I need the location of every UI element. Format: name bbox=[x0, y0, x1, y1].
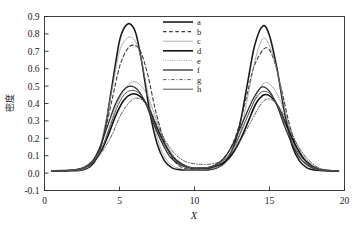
density-curve-a bbox=[52, 24, 339, 172]
legend-label-f: f bbox=[197, 65, 200, 75]
legend-label-b: b bbox=[197, 27, 201, 37]
chart-canvas: -0.10.00.10.20.30.40.50.60.70.80.9 05101… bbox=[0, 0, 359, 225]
y-tick-label-1: 0.0 bbox=[28, 169, 40, 179]
legend-label-c: c bbox=[197, 36, 201, 46]
x-axis-title: X bbox=[190, 210, 198, 221]
y-tick-label-2: 0.1 bbox=[28, 151, 40, 161]
density-chart-figure: -0.10.00.10.20.30.40.50.60.70.80.9 05101… bbox=[0, 0, 359, 225]
x-axis-tick-labels: 05101520 bbox=[42, 196, 349, 206]
legend-label-e: e bbox=[197, 56, 201, 66]
y-tick-label-3: 0.2 bbox=[28, 134, 40, 144]
y-axis-tick-labels: -0.10.00.10.20.30.40.50.60.70.80.9 bbox=[24, 12, 39, 196]
y-tick-label-7: 0.6 bbox=[28, 64, 40, 74]
x-tick-label-4: 20 bbox=[340, 196, 350, 206]
y-tick-label-4: 0.3 bbox=[28, 116, 40, 126]
y-tick-label-5: 0.4 bbox=[28, 99, 40, 109]
x-tick-label-3: 15 bbox=[265, 196, 275, 206]
y-tick-label-8: 0.7 bbox=[28, 47, 40, 57]
legend-label-h: h bbox=[197, 84, 202, 94]
legend-label-g: g bbox=[197, 75, 202, 85]
legend-label-a: a bbox=[197, 17, 201, 27]
y-tick-label-0: -0.1 bbox=[24, 186, 39, 196]
y-axis-title: 密度 bbox=[4, 94, 15, 112]
chart-legend: abcdefgh bbox=[163, 17, 202, 94]
y-tick-label-9: 0.8 bbox=[28, 29, 40, 39]
legend-label-d: d bbox=[197, 46, 202, 56]
density-curve-h bbox=[52, 90, 339, 171]
x-tick-label-1: 5 bbox=[117, 196, 122, 206]
y-tick-label-10: 0.9 bbox=[28, 12, 40, 22]
x-axis-ticks bbox=[45, 187, 345, 191]
x-tick-label-2: 10 bbox=[190, 196, 200, 206]
y-tick-label-6: 0.5 bbox=[28, 82, 40, 92]
density-curves bbox=[52, 24, 339, 172]
y-axis-ticks bbox=[45, 17, 49, 191]
x-tick-label-0: 0 bbox=[42, 196, 47, 206]
